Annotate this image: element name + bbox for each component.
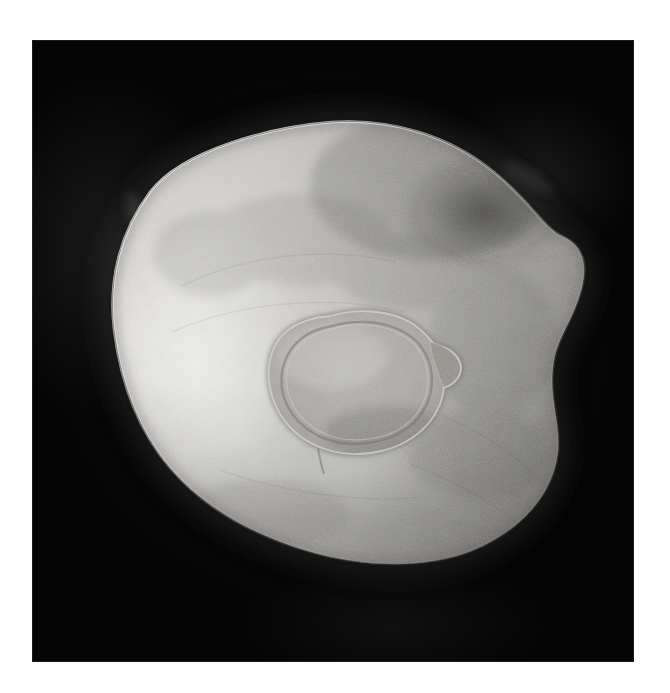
image-caption <box>0 0 1 1</box>
image-alt-text: Overhead grayscale photograph of a shall… <box>0 0 1 1</box>
metal-dish-illustration <box>32 40 634 662</box>
object-layer <box>32 40 634 662</box>
photo-plate <box>32 40 634 662</box>
photo-canvas: Overhead grayscale photograph of a shall… <box>0 0 670 693</box>
